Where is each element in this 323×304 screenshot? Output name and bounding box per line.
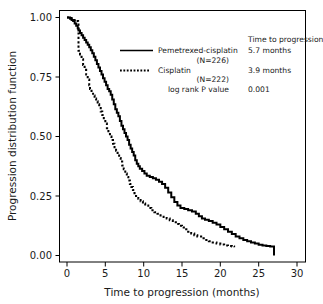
progression-chart-figure: 1.00 0.75 0.50 0.25 0.00 0 5 10 15 20 25… <box>0 0 323 304</box>
y-tick-label-0.00: 0.00 <box>30 250 52 261</box>
legend-value-pemetrexed-median: 5.7 months <box>248 46 291 55</box>
y-tick-label-0.50: 0.50 <box>30 131 52 142</box>
x-tick-label-15: 15 <box>176 268 189 279</box>
legend-value-cisplatin-median: 3.9 months <box>248 66 291 75</box>
y-tick-label-0.75: 0.75 <box>30 72 52 83</box>
x-axis-title: Time to progression (months) <box>103 286 259 298</box>
x-tick-label-20: 20 <box>214 268 227 279</box>
x-tick-label-25: 25 <box>252 268 265 279</box>
x-tick-label-30: 30 <box>291 268 304 279</box>
x-tick-label-10: 10 <box>137 268 150 279</box>
chart-svg: 1.00 0.75 0.50 0.25 0.00 0 5 10 15 20 25… <box>0 0 323 304</box>
legend-label-log-rank: log rank P value <box>168 85 229 94</box>
y-tick-label-0.25: 0.25 <box>30 191 52 202</box>
legend-label-cisplatin: Cisplatin <box>158 66 191 75</box>
legend-label-pemetrexed-cisplatin: Pemetrexed-cisplatin <box>158 46 238 55</box>
legend-sublabel-pemetrexed-n: (N=226) <box>197 56 229 65</box>
legend-value-log-rank-p: 0.001 <box>248 85 270 94</box>
y-tick-label-1.00: 1.00 <box>30 12 52 23</box>
x-tick-label-5: 5 <box>102 268 108 279</box>
y-axis-title: Progression distribution function <box>6 51 18 221</box>
x-tick-label-0: 0 <box>64 268 70 279</box>
legend-sublabel-cisplatin-n: (N=222) <box>197 75 229 84</box>
legend-column-header: Time to progression <box>247 35 323 44</box>
